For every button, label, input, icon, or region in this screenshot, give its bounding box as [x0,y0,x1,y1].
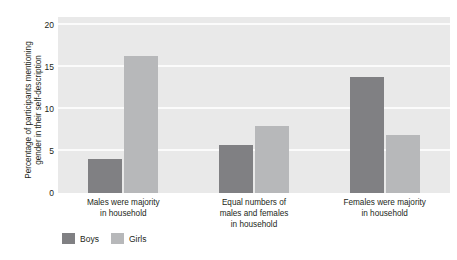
x-tick-label-line: Females were majority [319,197,450,208]
legend-swatch-icon [62,233,75,244]
bar-girls-group-2 [255,126,289,193]
bar-boys-group-3 [350,77,384,193]
legend-label: Boys [80,234,99,244]
chart-legend: BoysGirls [62,233,146,244]
y-tick-label: 5 [8,146,54,156]
x-tick-label-group-2: Equal numbers ofmales and femalesin hous… [189,197,320,231]
gridline [58,23,450,25]
gridline [58,107,450,109]
bar-girls-group-3 [386,135,420,193]
y-tick-label: 10 [8,104,54,114]
y-tick-label: 0 [8,188,54,198]
legend-entry-girls[interactable]: Girls [111,233,146,244]
x-tick-label-line: in household [319,208,450,219]
x-tick-label-line: Equal numbers of [189,197,320,208]
x-tick-label-group-1: Males were majorityin household [58,197,189,219]
y-tick-label: 20 [8,20,54,30]
y-axis-ticks: 05101520 [0,17,54,193]
x-tick-label-line: Males were majority [58,197,189,208]
plot-area [58,17,450,193]
legend-label: Girls [129,234,146,244]
x-axis-ticks: Males were majorityin householdEqual num… [58,197,450,237]
bar-boys-group-2 [219,145,253,193]
gridline [58,65,450,67]
x-tick-label-line: in household [58,208,189,219]
x-tick-label-group-3: Females were majorityin household [319,197,450,219]
bar-chart-figure: Percentage of participants mentioning ge… [0,0,457,260]
legend-swatch-icon [111,233,124,244]
legend-entry-boys[interactable]: Boys [62,233,99,244]
x-tick-label-line: males and females [189,208,320,219]
x-tick-label-line: in household [189,219,320,230]
bar-girls-group-1 [124,56,158,193]
bar-boys-group-1 [88,159,122,193]
y-tick-label: 15 [8,62,54,72]
